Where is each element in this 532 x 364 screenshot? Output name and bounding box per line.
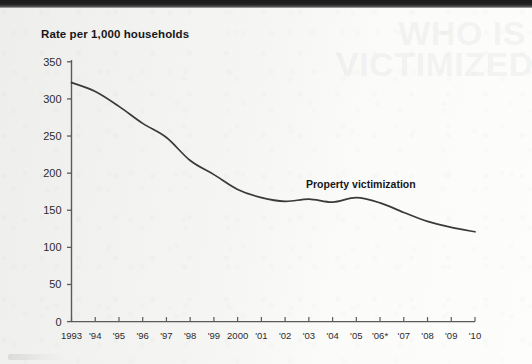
- x-tick-label: '97: [160, 330, 172, 341]
- y-tick-label: 50: [24, 278, 62, 290]
- x-tick-label: '10: [469, 330, 481, 341]
- x-tick-label: 1993: [61, 330, 82, 341]
- x-tick-label: '05: [350, 330, 362, 341]
- y-tick-label: 100: [24, 241, 62, 253]
- y-tick-label: 200: [24, 167, 62, 179]
- x-tick-label: '96: [137, 330, 149, 341]
- y-tick-label: 150: [24, 204, 62, 216]
- x-tick-label: '95: [113, 330, 125, 341]
- chart-page: WHO IS VICTIMIZED? Rate per 1,000 househ…: [0, 0, 532, 364]
- x-tick-label: '99: [208, 330, 220, 341]
- x-tick-label: '94: [89, 330, 101, 341]
- x-tick-label: '03: [303, 330, 315, 341]
- x-tick-label: '01: [255, 330, 267, 341]
- series-label-property-victimization: Property victimization: [306, 178, 416, 190]
- property-victimization-line: [72, 83, 476, 232]
- x-tick-label: '98: [184, 330, 196, 341]
- chart-plot-area: [0, 0, 532, 364]
- x-tick-label: '04: [326, 330, 338, 341]
- x-tick-label: 2000: [227, 330, 248, 341]
- x-tick-label: '09: [445, 330, 457, 341]
- y-tick-label: 250: [24, 130, 62, 142]
- y-tick-label: 0: [24, 316, 62, 328]
- y-tick-label: 350: [24, 56, 62, 68]
- y-tick-label: 300: [24, 93, 62, 105]
- x-tick-label: '08: [421, 330, 433, 341]
- line-chart: Rate per 1,000 households 05010015020025…: [0, 0, 532, 364]
- x-tick-label: '06*: [372, 330, 388, 341]
- x-tick-label: '02: [279, 330, 291, 341]
- x-tick-label: '07: [398, 330, 410, 341]
